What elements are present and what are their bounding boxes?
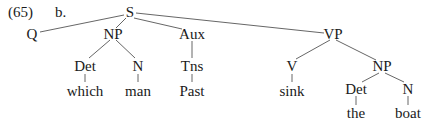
edge-s-vp bbox=[136, 13, 324, 33]
node-v: V bbox=[287, 59, 298, 74]
node-det-object: Det bbox=[345, 82, 367, 97]
node-q: Q bbox=[27, 27, 38, 42]
node-np-object: NP bbox=[372, 59, 391, 74]
edge-s-aux bbox=[134, 18, 182, 29]
node-s: S bbox=[126, 5, 134, 20]
leaf-man: man bbox=[125, 84, 151, 99]
edge-np-det bbox=[89, 40, 110, 58]
node-aux: Aux bbox=[179, 27, 205, 42]
edge-np-n2 bbox=[385, 73, 404, 82]
leaf-which: which bbox=[67, 84, 104, 99]
leaf-the: the bbox=[347, 106, 365, 121]
edge-vp-v bbox=[296, 40, 330, 59]
node-vp: VP bbox=[323, 27, 342, 42]
leaf-boat: boat bbox=[395, 106, 421, 121]
node-n-object: N bbox=[403, 82, 414, 97]
node-det-subject: Det bbox=[74, 59, 96, 74]
edge-np-n bbox=[116, 40, 135, 58]
node-tns: Tns bbox=[181, 59, 204, 74]
leaf-sink: sink bbox=[279, 84, 304, 99]
node-n-subject: N bbox=[133, 59, 144, 74]
node-np-subject: NP bbox=[103, 27, 122, 42]
edge-vp-np bbox=[336, 40, 376, 60]
leaf-past: Past bbox=[179, 84, 204, 99]
